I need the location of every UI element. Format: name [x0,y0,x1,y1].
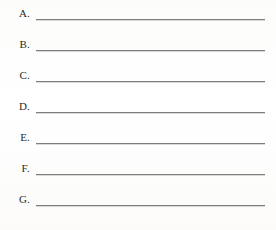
answer-write-line-a[interactable] [36,19,265,20]
answer-row: B. [0,31,276,53]
answer-row: E. [0,124,276,146]
answer-row-label-f: F. [0,163,30,174]
answer-row-label-g: G. [0,194,30,205]
answer-write-line-c[interactable] [36,81,265,82]
answer-write-line-d[interactable] [36,112,265,113]
answer-row-label-a: A. [0,8,30,19]
answer-row: C. [0,62,276,84]
answer-row-label-e: E. [0,132,30,143]
answer-write-line-g[interactable] [36,205,265,206]
answer-row: D. [0,93,276,115]
answer-row: A. [0,0,276,22]
answer-row-label-d: D. [0,101,30,112]
answer-write-line-b[interactable] [36,50,265,51]
answer-row-label-b: B. [0,39,30,50]
answer-row: G. [0,186,276,208]
answer-sheet-page: A. B. C. D. E. F. G. [0,0,276,230]
answer-row: F. [0,155,276,177]
answer-write-line-f[interactable] [36,174,265,175]
answer-write-line-e[interactable] [36,143,265,144]
answer-row-label-c: C. [0,70,30,81]
